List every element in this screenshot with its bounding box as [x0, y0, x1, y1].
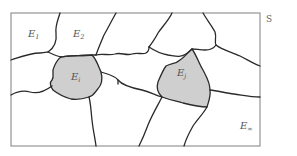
label-einf-sub: ∞ [247, 125, 252, 133]
sample-space-frame [11, 13, 260, 146]
space-label: S [266, 14, 272, 24]
label-einf: E∞ [239, 120, 253, 133]
label-e2: E2 [72, 28, 84, 41]
label-ei-sub: i [78, 76, 80, 84]
label-e1: E1 [27, 28, 39, 41]
label-e1-sub: 1 [35, 33, 39, 41]
region-boundaries [11, 13, 260, 146]
label-e2-sub: 2 [79, 33, 84, 41]
partition-diagram: S E1 E2 Ei Ej E∞ [0, 0, 297, 156]
